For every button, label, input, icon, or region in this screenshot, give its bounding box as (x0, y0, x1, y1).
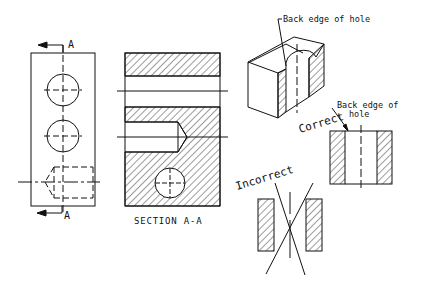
correct-callout-line2: hole (349, 109, 369, 119)
arrow-left-top-icon (38, 42, 47, 48)
drawing-canvas: A A SECTION A-A (0, 0, 424, 288)
section-label-bottom: A (64, 210, 70, 221)
isometric-view (248, 19, 324, 118)
isometric-callout: Back edge of hole (283, 14, 370, 24)
section-caption: SECTION A-A (134, 216, 202, 226)
section-view (117, 53, 228, 206)
incorrect-label: Incorrect (234, 163, 295, 193)
arrow-left-bottom-icon (37, 210, 46, 216)
section-hatch-top (125, 53, 220, 76)
front-view (18, 42, 100, 216)
incorrect-view (258, 183, 322, 275)
section-label-top: A (68, 39, 74, 50)
